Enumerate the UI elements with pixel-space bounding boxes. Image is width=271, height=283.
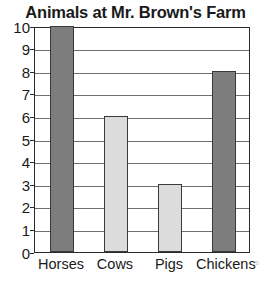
bar-cows [104, 116, 128, 252]
corner-watermark: s [255, 259, 269, 281]
chart-title: Animals at Mr. Brown's Farm [0, 3, 271, 22]
y-tick-label: 6 [4, 110, 30, 125]
x-tick-label-horses: Horses [34, 256, 88, 272]
bar-horses [50, 26, 74, 252]
y-tick-label: 3 [4, 178, 30, 193]
x-axis: HorsesCowsPigsChickens [34, 256, 250, 276]
bar-chickens [212, 71, 236, 252]
y-tick-label: 9 [4, 42, 30, 57]
y-axis: 109876543210 [0, 27, 30, 253]
y-tick-label: 0 [4, 246, 30, 261]
y-tick-label: 4 [4, 155, 30, 170]
y-tick-label: 8 [4, 65, 30, 80]
y-tick-label: 7 [4, 87, 30, 102]
x-tick-label-chickens: Chickens [196, 256, 250, 272]
y-tick-label: 2 [4, 200, 30, 215]
x-tick-label-cows: Cows [88, 256, 142, 272]
y-tick-label: 5 [4, 133, 30, 148]
bar-chart: Animals at Mr. Brown's Farm 109876543210… [0, 0, 271, 283]
y-tick-label: 1 [4, 223, 30, 238]
bar-pigs [158, 184, 182, 252]
plot-area [34, 27, 250, 253]
y-tick-label: 10 [4, 20, 30, 35]
x-tick-label-pigs: Pigs [142, 256, 196, 272]
